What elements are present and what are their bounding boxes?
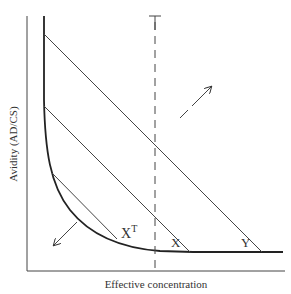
avidity-curve <box>44 16 283 252</box>
arrow-down-left <box>54 222 77 245</box>
line-xt <box>52 173 117 239</box>
arrow-up-right-tail <box>180 110 188 118</box>
line-y <box>44 34 262 252</box>
label-xt: XT <box>121 223 137 241</box>
diagram-canvas: XT X Y Effective concentration Avidity (… <box>0 0 291 294</box>
y-axis-label: Avidity (AD/CS) <box>7 106 20 182</box>
label-y: Y <box>241 235 251 250</box>
line-x <box>44 106 190 252</box>
arrow-up-right <box>192 87 211 106</box>
label-x: X <box>171 235 181 250</box>
x-axis-label: Effective concentration <box>105 278 208 290</box>
